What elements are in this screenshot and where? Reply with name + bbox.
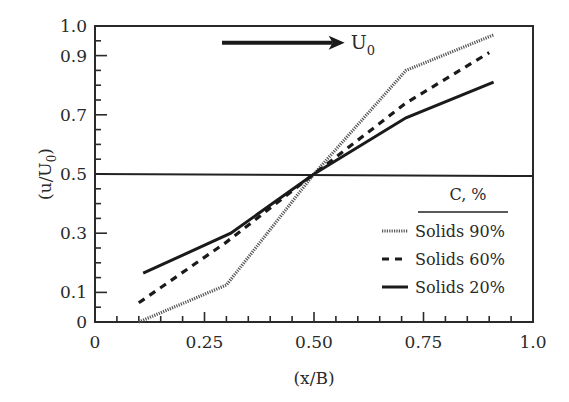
chart: 00.10.30.50.70.91.000.250.500.751.0 U0 C… bbox=[0, 0, 569, 402]
x-tick-label: 0.50 bbox=[295, 332, 333, 352]
series-solids-20 bbox=[143, 82, 493, 273]
x-tick-label: 0 bbox=[90, 332, 101, 352]
velocity-label: U0 bbox=[351, 31, 375, 58]
y-tick-label: 0.1 bbox=[60, 282, 87, 302]
flow-arrow-annotation: U0 bbox=[222, 31, 375, 58]
tick-labels: 00.10.30.50.70.91.000.250.500.751.0 bbox=[60, 16, 547, 352]
y-tick-label: 0.5 bbox=[60, 164, 87, 184]
x-tick-label: 0.25 bbox=[186, 332, 224, 352]
legend-label: Solids 90% bbox=[415, 222, 505, 241]
y-tick-label: 0.3 bbox=[60, 223, 87, 243]
y-tick-label: 0.9 bbox=[60, 46, 87, 66]
legend-title: C, % bbox=[449, 185, 486, 204]
y-axis-label: (u/U0) bbox=[35, 148, 59, 200]
y-tick-label: 0 bbox=[76, 312, 87, 332]
x-tick-label: 0.75 bbox=[405, 332, 443, 352]
y-tick-label: 1.0 bbox=[60, 16, 87, 36]
legend: C, % Solids 90%Solids 60%Solids 20% bbox=[382, 185, 508, 297]
legend-label: Solids 20% bbox=[415, 278, 505, 297]
legend-item: Solids 90% bbox=[382, 222, 505, 241]
x-axis-label: (x/B) bbox=[293, 368, 334, 388]
y-tick-label: 0.7 bbox=[60, 105, 87, 125]
legend-item: Solids 60% bbox=[382, 250, 505, 269]
legend-item: Solids 20% bbox=[382, 278, 505, 297]
x-tick-label: 1.0 bbox=[519, 332, 546, 352]
legend-label: Solids 60% bbox=[415, 250, 505, 269]
